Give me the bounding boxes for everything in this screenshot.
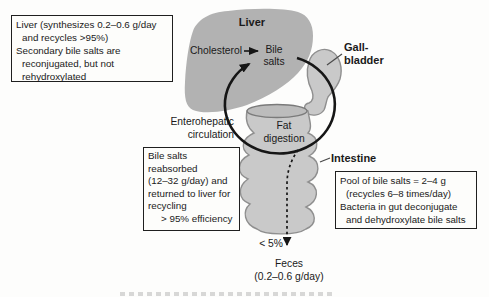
- fat-digestion-label: Fat digestion: [254, 120, 314, 146]
- gallbladder-line: Gall-: [344, 41, 396, 54]
- box-line: > 95% efficiency: [148, 213, 236, 226]
- feces-line: Feces: [234, 257, 344, 270]
- box-line: (12–32 g/day) and: [148, 175, 236, 188]
- intestine-cup-rim: [247, 105, 307, 118]
- liver-note-box: Liver (synthesizes 0.2–0.6 g/day and rec…: [11, 15, 173, 82]
- box-line: recycling: [148, 200, 236, 213]
- box-line: Bile salts: [148, 150, 236, 163]
- intestine-pointer-line: [320, 158, 330, 162]
- box-line: reconjugated, but not: [16, 57, 169, 70]
- enterohepatic-circulation-label: Enterohepatic circulation: [146, 116, 234, 142]
- box-line: returned to liver for: [148, 188, 236, 201]
- less-than-5-percent-label: < 5%: [252, 238, 283, 251]
- box-line: Pool of bile salts = 2–4 g: [340, 174, 473, 187]
- feces-line: (0.2–0.6 g/day): [234, 270, 344, 283]
- cropped-caption-remnant: [120, 292, 335, 296]
- box-line: Secondary bile salts are: [16, 44, 169, 57]
- reabsorption-note-box: Bile salts reabsorbed (12–32 g/day) and …: [143, 147, 240, 231]
- enterohepatic-circulation-diagram: Liver Cholesterol Bile salts Gall- bladd…: [0, 0, 489, 297]
- cholesterol-label: Cholesterol: [186, 45, 242, 58]
- gallbladder-line: bladder: [344, 54, 396, 67]
- box-line: Liver (synthesizes 0.2–0.6 g/day: [16, 18, 169, 31]
- bile-salts-line: Bile: [252, 44, 296, 56]
- box-line: and dehydroxylate bile salts: [340, 213, 473, 226]
- liver-label: Liver: [226, 16, 278, 29]
- box-line: rehydroxylated: [16, 70, 169, 83]
- box-line: and recycles >95%): [16, 31, 169, 44]
- bile-salts-label: Bile salts: [252, 44, 296, 68]
- gallbladder-label: Gall- bladder: [344, 41, 396, 66]
- box-line: reabsorbed: [148, 163, 236, 176]
- box-line: Bacteria in gut deconjugate: [340, 200, 473, 213]
- intestine-label: Intestine: [331, 152, 385, 165]
- pool-note-box: Pool of bile salts = 2–4 g (recycles 6–8…: [335, 171, 477, 229]
- fat-digestion-line: digestion: [254, 133, 314, 146]
- enterohepatic-line: circulation: [146, 129, 234, 142]
- enterohepatic-line: Enterohepatic: [146, 116, 234, 129]
- bile-salts-line: salts: [252, 56, 296, 68]
- feces-label: Feces (0.2–0.6 g/day): [234, 257, 344, 283]
- box-line: (recycles 6–8 times/day): [340, 187, 473, 200]
- fat-digestion-line: Fat: [254, 120, 314, 133]
